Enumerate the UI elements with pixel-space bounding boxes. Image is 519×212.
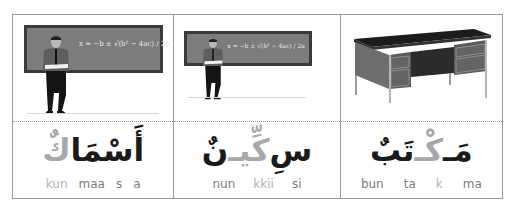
syllable: si bbox=[292, 177, 302, 191]
syllable: s bbox=[116, 177, 122, 191]
card-divider bbox=[174, 121, 339, 122]
arabic-word: مَـكْـتَبٌ bbox=[341, 127, 502, 173]
teacher-icon bbox=[35, 35, 77, 115]
word-part: تَبٌ bbox=[370, 132, 414, 168]
syllable: ma bbox=[463, 177, 482, 191]
syllable: k bbox=[436, 177, 443, 191]
flashcard-asmaakun: x = −b ± √(b² − 4ac) / 2a أَسْمَاكٌ kun … bbox=[13, 15, 173, 198]
syllable: bun bbox=[361, 177, 384, 191]
syllable: kun bbox=[46, 177, 68, 191]
transliteration: nun kkii si bbox=[174, 177, 339, 191]
card-divider bbox=[13, 121, 173, 122]
flashcard-maktabun: مَـكْـتَبٌ bun ta k ma bbox=[340, 15, 502, 198]
card-divider bbox=[341, 121, 502, 122]
card-picture bbox=[341, 15, 502, 121]
word-part: نٌ bbox=[202, 132, 228, 168]
transliteration: bun ta k ma bbox=[341, 177, 502, 191]
syllable: ta bbox=[404, 177, 416, 191]
word-part: سِ bbox=[270, 132, 313, 168]
syllable: maa bbox=[79, 177, 105, 191]
syllable: kkii bbox=[253, 177, 274, 191]
word-part: أَسْمَا bbox=[71, 132, 145, 168]
desk-icon bbox=[349, 25, 499, 105]
floor-line bbox=[188, 97, 306, 98]
word-part-highlight: كْـ bbox=[414, 132, 443, 168]
transliteration: kun maa s a bbox=[13, 177, 173, 191]
arabic-word: أَسْمَاكٌ bbox=[13, 127, 173, 173]
flashcard-sikkiinun: x = −b ± √(b² − 4ac) / 2a سِكِّيـنٌ nun … bbox=[173, 15, 339, 198]
word-part: مَـ bbox=[443, 132, 473, 168]
teacher-icon bbox=[196, 38, 230, 100]
word-part-highlight: كِّيـ bbox=[228, 132, 269, 168]
card-picture: x = −b ± √(b² − 4ac) / 2a bbox=[13, 15, 173, 121]
word-part-highlight: كٌ bbox=[42, 132, 70, 168]
flashcard-grid: x = −b ± √(b² − 4ac) / 2a أَسْمَاكٌ kun … bbox=[12, 14, 503, 199]
card-picture: x = −b ± √(b² − 4ac) / 2a bbox=[174, 15, 339, 121]
formula-text: x = −b ± √(b² − 4ac) / 2a bbox=[79, 40, 169, 48]
arabic-word: سِكِّيـنٌ bbox=[174, 127, 339, 173]
syllable: nun bbox=[213, 177, 236, 191]
floor-line bbox=[27, 113, 159, 114]
syllable: a bbox=[133, 177, 140, 191]
formula-text: x = −b ± √(b² − 4ac) / 2a bbox=[227, 42, 305, 49]
